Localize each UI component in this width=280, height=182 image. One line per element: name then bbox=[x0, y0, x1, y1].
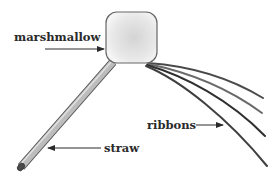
marshmallow-straw-ribbons-diagram: marshmallow ribbons straw bbox=[0, 0, 280, 182]
marshmallow bbox=[106, 12, 157, 63]
ribbons-label: ribbons bbox=[147, 118, 196, 132]
marshmallow-callout: marshmallow bbox=[14, 30, 104, 49]
ribbons-callout: ribbons bbox=[147, 118, 223, 132]
marshmallow-label: marshmallow bbox=[14, 30, 102, 44]
straw bbox=[16, 62, 113, 172]
ribbons bbox=[146, 63, 267, 166]
straw-callout: straw bbox=[48, 141, 140, 155]
straw-label: straw bbox=[104, 141, 140, 155]
